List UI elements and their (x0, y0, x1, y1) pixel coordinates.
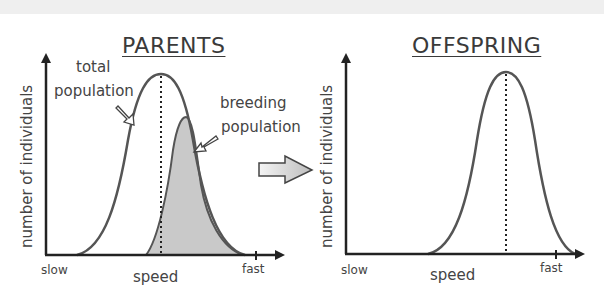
parents-x-min-label: slow (41, 263, 68, 277)
total-pointer-arrow-icon (116, 106, 134, 125)
offspring-title: OFFSPRING (412, 33, 541, 58)
offspring-population-curve (428, 72, 575, 254)
offspring-x-axis-label: speed (430, 266, 475, 284)
offspring-x-max-label: fast (540, 261, 563, 275)
parents-x-axis-label: speed (133, 268, 178, 286)
transition-arrow-icon (259, 156, 312, 183)
parents-x-max-label: fast (242, 262, 265, 276)
breeding-pointer-arrow-icon (194, 136, 218, 152)
offspring-x-min-label: slow (341, 263, 368, 277)
offspring-chart (345, 58, 580, 259)
total-population-label-line1: total (76, 58, 110, 76)
total-population-label-line2: population (54, 82, 134, 100)
breeding-population-label-line1: breeding (220, 94, 287, 112)
parents-title: PARENTS (122, 33, 225, 58)
breeding-population-label-line2: population (221, 118, 301, 136)
offspring-y-axis-label: number of individuals (318, 85, 336, 248)
parents-y-axis-label: number of individuals (18, 85, 36, 248)
